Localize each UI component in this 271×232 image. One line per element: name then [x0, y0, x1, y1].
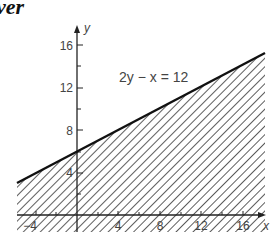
svg-text:16: 16 [60, 39, 74, 53]
svg-text:12: 12 [194, 219, 208, 232]
svg-text:−4: −4 [23, 219, 37, 232]
svg-text:4: 4 [115, 219, 122, 232]
inequality-chart: −4 4 8 12 16 x 4 8 12 16 y 2y − x = 12 [0, 0, 271, 232]
svg-text:8: 8 [157, 219, 164, 232]
equation-label: 2y − x = 12 [119, 69, 188, 85]
svg-text:y: y [83, 21, 91, 35]
svg-text:16: 16 [236, 219, 250, 232]
svg-text:x: x [262, 219, 270, 232]
svg-text:8: 8 [66, 124, 73, 138]
svg-text:12: 12 [60, 81, 74, 95]
svg-text:4: 4 [66, 166, 73, 180]
